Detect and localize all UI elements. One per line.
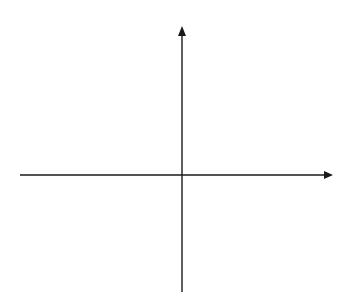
coordinate-axes-diagram bbox=[0, 0, 347, 304]
background bbox=[0, 0, 347, 304]
